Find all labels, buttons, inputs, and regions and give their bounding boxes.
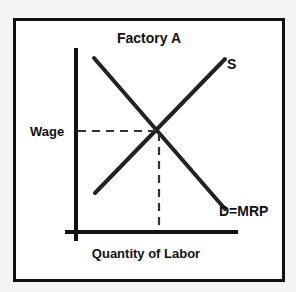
supply-curve-label: S: [227, 57, 236, 71]
figure-screenshot: Factory A Wage Quantity of Labor S D=MRP: [0, 0, 296, 292]
labor-market-diagram: [16, 21, 282, 279]
figure-title: Factory A: [16, 31, 282, 45]
x-axis-label: Quantity of Labor: [16, 247, 276, 260]
y-axis-label: Wage: [30, 125, 64, 138]
demand-curve-label: D=MRP: [219, 204, 268, 218]
figure-frame-border: Factory A Wage Quantity of Labor S D=MRP: [13, 18, 285, 282]
figure-canvas: Factory A Wage Quantity of Labor S D=MRP: [16, 21, 282, 279]
